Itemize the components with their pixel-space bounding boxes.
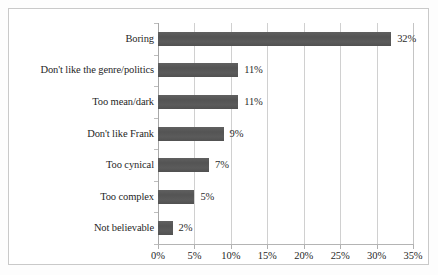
- bar: [158, 127, 224, 141]
- x-axis-tick-label: 0%: [151, 251, 165, 262]
- y-axis-tick: [154, 212, 158, 213]
- bar-value-label: 7%: [215, 160, 229, 171]
- chart-screenshot: BoringDon't like the genre/politicsToo m…: [0, 0, 438, 275]
- bar-value-label: 32%: [397, 34, 416, 45]
- x-axis-tick: [267, 245, 268, 249]
- gridline-20pct: [304, 23, 305, 244]
- y-axis-tick: [154, 23, 158, 24]
- x-axis-tick: [231, 245, 232, 249]
- category-label: Too cynical: [9, 160, 154, 171]
- bar-value-label: 2%: [179, 223, 193, 234]
- x-axis-tick-label: 20%: [294, 251, 313, 262]
- gridline-25pct: [340, 23, 341, 244]
- bar-value-label: 5%: [200, 192, 214, 203]
- x-axis-tick: [377, 245, 378, 249]
- x-axis-tick: [158, 245, 159, 249]
- gridline-15pct: [267, 23, 268, 244]
- y-axis-tick: [154, 181, 158, 182]
- x-axis-tick-label: 10%: [221, 251, 240, 262]
- category-axis-labels: BoringDon't like the genre/politicsToo m…: [9, 23, 154, 244]
- x-axis-tick-label: 25%: [331, 251, 350, 262]
- category-label: Don't like the genre/politics: [9, 65, 154, 76]
- y-axis-tick: [154, 118, 158, 119]
- x-axis-tick: [413, 245, 414, 249]
- bar: [158, 32, 391, 46]
- bar-value-label: 9%: [230, 129, 244, 140]
- x-axis-tick-label: 30%: [367, 251, 386, 262]
- bar-value-label: 11%: [244, 97, 263, 108]
- chart-frame: BoringDon't like the genre/politicsToo m…: [8, 8, 429, 265]
- category-label: Boring: [9, 34, 154, 45]
- category-label: Too complex: [9, 192, 154, 203]
- x-axis-tick-label: 15%: [258, 251, 277, 262]
- bar: [158, 158, 209, 172]
- x-axis-tick: [304, 245, 305, 249]
- x-axis-tick-label: 5%: [188, 251, 202, 262]
- category-label: Not believable: [9, 223, 154, 234]
- y-axis-tick: [154, 149, 158, 150]
- bar: [158, 63, 238, 77]
- bar: [158, 190, 194, 204]
- y-axis-tick: [154, 86, 158, 87]
- y-axis-tick: [154, 55, 158, 56]
- category-label: Don't like Frank: [9, 129, 154, 140]
- gridline-35pct: [413, 23, 414, 244]
- plot-area: 32%11%11%9%7%5%2%: [158, 23, 413, 244]
- x-axis-tick: [194, 245, 195, 249]
- bar: [158, 95, 238, 109]
- bar-value-label: 11%: [244, 65, 263, 76]
- bar: [158, 221, 173, 235]
- y-axis-tick: [154, 244, 158, 245]
- gridline-30pct: [377, 23, 378, 244]
- category-label: Too mean/dark: [9, 97, 154, 108]
- x-axis-tick-label: 35%: [404, 251, 423, 262]
- x-axis-tick: [340, 245, 341, 249]
